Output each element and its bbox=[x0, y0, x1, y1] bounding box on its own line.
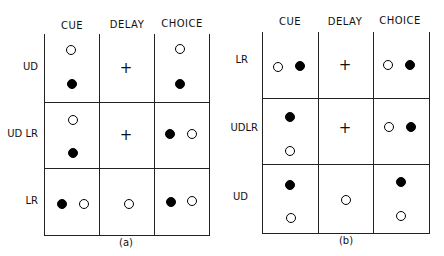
filled-circle-icon bbox=[57, 199, 67, 209]
row-label-ud: UD bbox=[2, 61, 38, 72]
open-circle-icon bbox=[175, 44, 185, 54]
fixation-cross-icon: + bbox=[119, 61, 133, 76]
open-circle-icon bbox=[286, 213, 296, 223]
filled-circle-icon bbox=[166, 197, 176, 207]
open-circle-icon bbox=[79, 199, 89, 209]
divider bbox=[99, 34, 100, 235]
col-header-cue: CUE bbox=[262, 16, 318, 27]
divider bbox=[318, 32, 319, 233]
open-circle-icon bbox=[384, 122, 394, 132]
filled-circle-icon bbox=[396, 177, 406, 187]
col-header-choice: CHOICE bbox=[372, 15, 428, 26]
open-circle-icon bbox=[273, 62, 283, 72]
filled-circle-icon bbox=[285, 180, 295, 190]
open-circle-icon bbox=[396, 211, 406, 221]
col-header-delay: DELAY bbox=[99, 19, 155, 30]
open-circle-icon bbox=[124, 199, 134, 209]
filled-circle-icon bbox=[68, 148, 78, 158]
filled-circle-icon bbox=[165, 129, 175, 139]
fixation-cross-icon: + bbox=[119, 128, 133, 143]
row-label-lr: LR bbox=[2, 195, 38, 206]
filled-circle-icon bbox=[406, 122, 416, 132]
open-circle-icon bbox=[383, 60, 393, 70]
row-label-udlr: UDLR bbox=[222, 122, 258, 133]
open-circle-icon bbox=[285, 146, 295, 156]
filled-circle-icon bbox=[285, 112, 295, 122]
row-label-lr: LR bbox=[212, 54, 248, 65]
divider bbox=[154, 34, 155, 235]
col-header-choice: CHOICE bbox=[154, 18, 210, 29]
open-circle-icon bbox=[66, 45, 76, 55]
divider bbox=[373, 32, 374, 233]
divider bbox=[263, 164, 429, 165]
filled-circle-icon bbox=[405, 60, 415, 70]
col-header-cue: CUE bbox=[44, 20, 100, 31]
open-circle-icon bbox=[68, 115, 78, 125]
open-circle-icon bbox=[341, 195, 351, 205]
open-circle-icon bbox=[187, 129, 197, 139]
filled-circle-icon bbox=[295, 61, 305, 71]
caption-a: (a) bbox=[111, 237, 141, 248]
caption-b: (b) bbox=[331, 235, 361, 246]
fixation-cross-icon: + bbox=[338, 121, 352, 136]
open-circle-icon bbox=[187, 196, 197, 206]
divider bbox=[45, 102, 209, 103]
divider bbox=[45, 168, 209, 169]
row-label-ud: UD bbox=[212, 191, 248, 202]
row-label-udlr: UD LR bbox=[2, 128, 38, 139]
filled-circle-icon bbox=[175, 79, 185, 89]
divider bbox=[263, 98, 429, 99]
col-header-delay: DELAY bbox=[317, 16, 373, 27]
fixation-cross-icon: + bbox=[338, 58, 352, 73]
filled-circle-icon bbox=[67, 79, 77, 89]
